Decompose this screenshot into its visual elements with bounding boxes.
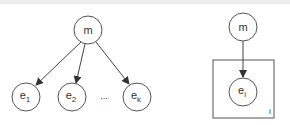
edge-m-ek bbox=[96, 42, 129, 84]
svg-text:m: m bbox=[83, 24, 92, 36]
node-m: m bbox=[74, 16, 102, 44]
edge-m-e1 bbox=[36, 42, 81, 85]
node-ek: ek bbox=[123, 83, 151, 111]
left-model: m e1 e2 ... ek bbox=[12, 16, 151, 111]
node-m-plate: m bbox=[229, 13, 257, 41]
svg-text:m: m bbox=[238, 21, 247, 33]
plate-label: i bbox=[269, 107, 271, 116]
node-e1: e1 bbox=[12, 83, 40, 111]
right-model: m ei i bbox=[213, 13, 274, 118]
node-ei: ei bbox=[229, 78, 257, 106]
ellipsis: ... bbox=[100, 91, 108, 101]
graphical-model-diagram: m e1 e2 ... ek m ei i bbox=[0, 0, 290, 125]
edge-m-e2 bbox=[76, 44, 85, 83]
node-e2: e2 bbox=[58, 83, 86, 111]
